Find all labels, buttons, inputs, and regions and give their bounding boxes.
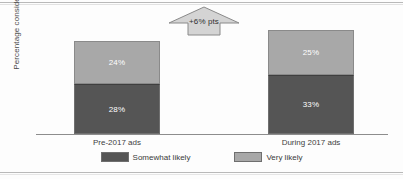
legend-swatch-icon — [101, 152, 129, 162]
chart-legend: Somewhat likely Very likely — [0, 152, 403, 162]
bar-segment-very-likely[interactable]: 25% — [268, 30, 354, 75]
bar-segment-very-likely[interactable]: 24% — [74, 41, 160, 84]
bar-segment-label: 33% — [303, 100, 320, 109]
bar-segment-label: 24% — [109, 58, 126, 67]
stacked-bar-chart: Percentage considering 24% 28% 25% 33% P… — [0, 0, 403, 179]
bar-pre-2017-ads[interactable]: 24% 28% — [74, 41, 160, 134]
bar-segment-somewhat-likely[interactable]: 33% — [268, 75, 354, 134]
bar-segment-somewhat-likely[interactable]: 28% — [74, 84, 160, 134]
bar-segment-label: 28% — [109, 105, 126, 114]
delta-annotation-label: +6% pts — [168, 17, 240, 26]
legend-label: Somewhat likely — [133, 153, 191, 162]
x-axis-tick-label: Pre-2017 ads — [42, 138, 192, 147]
legend-item-somewhat-likely[interactable]: Somewhat likely — [101, 152, 191, 162]
y-axis-title: Percentage considering — [12, 0, 21, 87]
legend-label: Very likely — [266, 153, 302, 162]
x-axis-tick-label: During 2017 ads — [236, 138, 386, 147]
bar-during-2017-ads[interactable]: 25% 33% — [268, 30, 354, 134]
legend-swatch-icon — [234, 152, 262, 162]
bar-segment-label: 25% — [303, 48, 320, 57]
delta-annotation: +6% pts — [168, 6, 240, 36]
legend-item-very-likely[interactable]: Very likely — [234, 152, 302, 162]
x-axis-line — [36, 134, 388, 135]
